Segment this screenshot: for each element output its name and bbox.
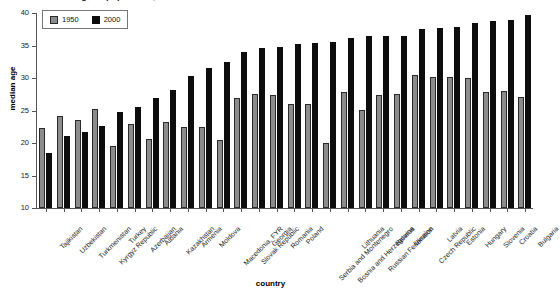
bar-1950 <box>75 120 81 208</box>
bar-group <box>109 13 127 208</box>
bar-group <box>375 13 393 208</box>
bar-group <box>56 13 74 208</box>
x-tick <box>490 208 491 212</box>
bar-group <box>500 13 518 208</box>
bar-group <box>145 13 163 208</box>
x-tick <box>170 208 171 212</box>
bar-group <box>287 13 305 208</box>
bar-2000 <box>64 136 70 208</box>
bar-1950 <box>270 95 276 208</box>
bar-group <box>180 13 198 208</box>
bar-2000 <box>277 47 283 208</box>
bar-1950 <box>394 94 400 208</box>
plot-area: 10152025303540 TajikistanUzbekistanTurkm… <box>36 13 533 208</box>
bar-1950 <box>501 91 507 208</box>
bar-2000 <box>135 107 141 208</box>
bar-2000 <box>224 62 230 208</box>
bar-2000 <box>419 29 425 208</box>
bar-1950 <box>376 95 382 208</box>
bar-1950 <box>341 92 347 208</box>
bar-2000 <box>366 36 372 208</box>
x-tick <box>525 208 526 212</box>
x-tick <box>454 208 455 212</box>
bar-2000 <box>490 21 496 208</box>
bar-group <box>304 13 322 208</box>
bar-1950 <box>146 139 152 208</box>
bar-group <box>38 13 56 208</box>
bar-2000 <box>472 23 478 208</box>
y-tick: 15 <box>32 176 36 177</box>
bar-1950 <box>57 116 63 208</box>
bar-group <box>482 13 500 208</box>
bar-2000 <box>206 68 212 208</box>
y-tick-label: 30 <box>21 73 29 82</box>
bar-2000 <box>295 44 301 208</box>
bar-group <box>393 13 411 208</box>
y-tick: 20 <box>32 143 36 144</box>
x-tick <box>330 208 331 212</box>
bar-2000 <box>383 36 389 208</box>
bar-1950 <box>234 98 240 208</box>
x-tick <box>117 208 118 212</box>
x-tick <box>206 208 207 212</box>
x-tick <box>348 208 349 212</box>
bar-1950 <box>199 127 205 208</box>
x-tick <box>135 208 136 212</box>
x-tick <box>507 208 508 212</box>
legend-label-1950: 1950 <box>62 15 79 24</box>
bar-2000 <box>401 36 407 208</box>
bar-group <box>216 13 234 208</box>
bar-1950 <box>447 77 453 208</box>
x-tick <box>312 208 313 212</box>
chart-title: Median age of population, 1950 and 2000 <box>42 0 220 1</box>
bar-1950 <box>483 92 489 208</box>
y-axis-line <box>36 13 37 209</box>
bar-1950 <box>110 146 116 208</box>
y-tick: 35 <box>32 46 36 47</box>
bar-2000 <box>508 20 514 209</box>
x-category-label: Bulgaria <box>537 225 560 248</box>
y-tick-label: 15 <box>21 171 29 180</box>
x-tick <box>436 208 437 212</box>
y-axis-title: median age <box>8 49 17 129</box>
legend-label-2000: 2000 <box>104 15 121 24</box>
x-tick <box>64 208 65 212</box>
legend-entry-2000: 2000 <box>92 15 121 24</box>
bar-2000 <box>454 27 460 208</box>
bar-group <box>411 13 429 208</box>
x-tick <box>99 208 100 212</box>
bar-group <box>91 13 109 208</box>
x-tick <box>277 208 278 212</box>
bar-group <box>162 13 180 208</box>
bar-group <box>269 13 287 208</box>
y-tick-label: 25 <box>21 106 29 115</box>
legend-entry-1950: 1950 <box>50 15 79 24</box>
y-tick-label: 40 <box>21 8 29 17</box>
bar-1950 <box>252 94 258 208</box>
y-tick-label: 10 <box>21 203 29 212</box>
bar-group <box>233 13 251 208</box>
x-tick <box>152 208 153 212</box>
bar-1950 <box>359 110 365 208</box>
bar-2000 <box>170 90 176 208</box>
bar-group <box>127 13 145 208</box>
bar-2000 <box>259 48 265 208</box>
bar-1950 <box>163 122 169 208</box>
bar-group <box>358 13 376 208</box>
y-tick: 25 <box>32 111 36 112</box>
x-tick <box>472 208 473 212</box>
y-tick-label: 20 <box>21 138 29 147</box>
bar-group <box>446 13 464 208</box>
y-tick: 40 <box>32 13 36 14</box>
bar-1950 <box>323 143 329 208</box>
bar-2000 <box>117 112 123 208</box>
x-tick <box>188 208 189 212</box>
x-tick <box>365 208 366 212</box>
bar-group <box>251 13 269 208</box>
bar-2000 <box>153 98 159 209</box>
bar-1950 <box>412 75 418 208</box>
bar-1950 <box>518 97 524 208</box>
bar-1950 <box>288 104 294 208</box>
bar-2000 <box>312 43 318 208</box>
